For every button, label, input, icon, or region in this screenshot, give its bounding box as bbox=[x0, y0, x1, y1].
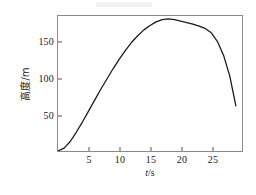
x-tick-label: 15 bbox=[146, 155, 156, 165]
y-tick-mark bbox=[58, 41, 62, 42]
x-tick-mark bbox=[182, 147, 183, 151]
x-tick-label: 25 bbox=[208, 155, 218, 165]
x-tick-mark bbox=[89, 147, 90, 151]
x-tick-label: 5 bbox=[86, 155, 91, 165]
x-tick-mark bbox=[120, 147, 121, 151]
y-tick-label: 50 bbox=[44, 111, 54, 121]
x-tick-mark bbox=[213, 147, 214, 151]
x-axis-title-unit: /s bbox=[148, 167, 155, 178]
figure-canvas: 高度/m 50100150510152025 t/s bbox=[0, 0, 256, 195]
y-tick-label: 150 bbox=[38, 37, 54, 47]
y-axis-title: 高度/m bbox=[21, 67, 31, 100]
y-tick-mark bbox=[58, 78, 62, 79]
height-vs-time-curve bbox=[58, 19, 236, 151]
scan-artifact bbox=[96, 2, 152, 7]
curve-svg bbox=[58, 16, 242, 151]
x-axis-title: t/s bbox=[145, 168, 154, 178]
y-tick-mark bbox=[58, 115, 62, 116]
y-tick-label: 100 bbox=[38, 74, 54, 84]
plot-area: 50100150510152025 bbox=[57, 15, 243, 152]
x-tick-mark bbox=[151, 147, 152, 151]
x-tick-label: 10 bbox=[115, 155, 125, 165]
x-tick-label: 20 bbox=[177, 155, 187, 165]
